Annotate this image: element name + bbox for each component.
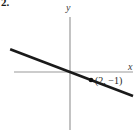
x-axis-label: x	[128, 62, 132, 72]
coordinate-plane-svg	[0, 0, 139, 130]
point-coordinate-label: (2, −1)	[95, 75, 122, 86]
y-axis-label: y	[66, 3, 70, 13]
graph-figure: 2. y x (2, −1)	[0, 0, 139, 130]
point-marker	[89, 78, 94, 83]
